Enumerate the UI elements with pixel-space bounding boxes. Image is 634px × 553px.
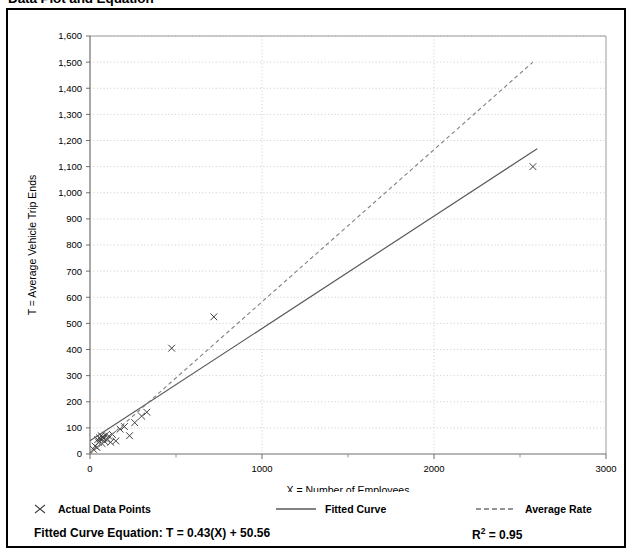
legend-item-actual-data-points: Actual Data Points: [32, 496, 151, 522]
page-title: Data Plot and Equation: [8, 0, 154, 6]
y-axis-tick-label: 1,500: [58, 57, 82, 68]
legend-item-average-rate: Average Rate: [476, 496, 592, 522]
y-axis-tick-label: 1,000: [58, 187, 82, 198]
y-axis-tick-label: 500: [66, 318, 82, 329]
x-axis-tick-label: 0: [87, 463, 92, 474]
r-squared-prefix: R: [472, 528, 481, 542]
y-axis-tick-label: 400: [66, 344, 82, 355]
x-axis-title: X = Number of Employees: [287, 484, 410, 492]
y-axis-tick-label: 1,100: [58, 161, 82, 172]
x-axis-tick-label: 1000: [251, 463, 272, 474]
y-axis-title: T = Average Vehicle Trip Ends: [26, 175, 38, 316]
x-axis-tick-label: 2000: [423, 463, 444, 474]
legend-label-average-rate: Average Rate: [525, 503, 592, 515]
chart-legend: Actual Data Points Fitted Curve Average …: [8, 496, 624, 522]
data-point-marker: [107, 439, 114, 446]
average-rate-line: [90, 62, 533, 454]
chart-region: 01002003004005006007008009001,0001,1001,…: [8, 10, 624, 492]
data-point-marker: [530, 163, 537, 170]
y-axis-tick-label: 1,400: [58, 83, 82, 94]
y-axis-tick-label: 900: [66, 213, 82, 224]
data-point-marker: [131, 419, 138, 426]
data-point-marker: [143, 409, 150, 416]
y-axis-tick-label: 600: [66, 292, 82, 303]
r-squared-number: = 0.95: [485, 528, 522, 542]
data-point-marker: [126, 432, 133, 439]
y-axis-tick-label: 1,600: [58, 30, 82, 41]
fitted-curve-equation: Fitted Curve Equation: T = 0.43(X) + 50.…: [34, 526, 270, 540]
data-point-marker: [210, 313, 217, 320]
figure-frame: 01002003004005006007008009001,0001,1001,…: [6, 8, 626, 548]
data-point-marker: [112, 438, 119, 445]
y-axis-tick-label: 100: [66, 422, 82, 433]
dashed-line-icon: [476, 502, 516, 516]
legend-label-fitted-curve: Fitted Curve: [325, 503, 386, 515]
data-point-marker: [168, 345, 175, 352]
y-axis-tick-label: 800: [66, 239, 82, 250]
scatter-plot: 01002003004005006007008009001,0001,1001,…: [8, 10, 624, 492]
x-axis-tick-label: 3000: [595, 463, 616, 474]
y-axis-tick-label: 1,200: [58, 135, 82, 146]
y-axis-tick-label: 0: [77, 448, 82, 459]
equation-row: Fitted Curve Equation: T = 0.43(X) + 50.…: [8, 524, 624, 548]
legend-label-actual-data-points: Actual Data Points: [58, 503, 151, 515]
y-axis-tick-label: 700: [66, 266, 82, 277]
solid-line-icon: [276, 502, 316, 516]
data-point-marker: [138, 413, 145, 420]
x-marker-icon: [32, 502, 48, 516]
fitted-curve-line: [90, 149, 537, 441]
y-axis-tick-label: 300: [66, 370, 82, 381]
y-axis-tick-label: 1,300: [58, 109, 82, 120]
r-squared-value: R2 = 0.95: [472, 526, 522, 542]
y-axis-tick-label: 200: [66, 396, 82, 407]
legend-item-fitted-curve: Fitted Curve: [276, 496, 386, 522]
